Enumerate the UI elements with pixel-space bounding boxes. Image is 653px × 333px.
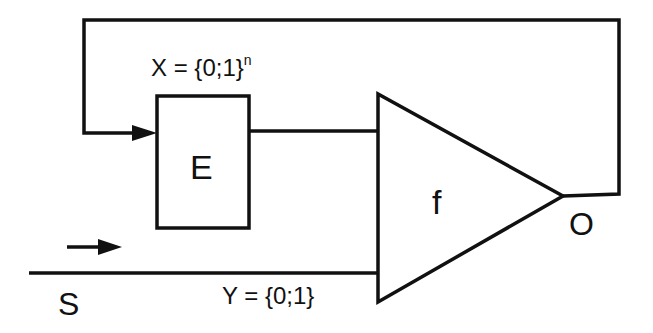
feedback-arrowhead-icon: [132, 125, 157, 141]
label-f: f: [432, 185, 441, 219]
label-o: O: [569, 208, 594, 240]
label-e: E: [190, 150, 213, 184]
block-f: [378, 94, 563, 302]
diagram-canvas: [0, 0, 653, 333]
label-y-set: Y = {0;1}: [222, 284, 314, 308]
direction-arrow-icon: [98, 239, 122, 255]
label-x-set: X = {0;1}n: [151, 56, 252, 80]
label-x-set-base: X = {0;1}: [151, 54, 244, 81]
label-x-set-exponent: n: [244, 52, 252, 68]
label-s: S: [58, 288, 79, 320]
